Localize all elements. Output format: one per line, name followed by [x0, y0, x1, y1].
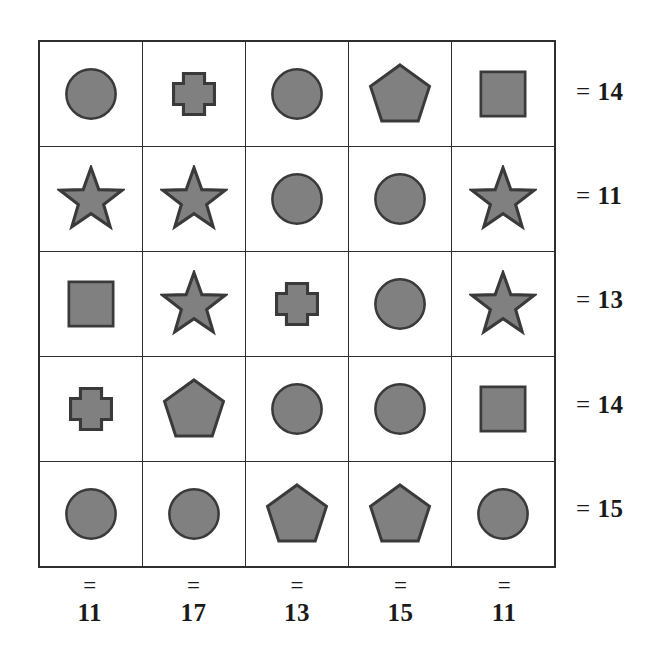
column-sum-value: 13 [284, 600, 310, 625]
grid-cell[interactable] [451, 462, 555, 568]
pentagon-icon [349, 42, 451, 146]
equals-sign: = [576, 391, 591, 419]
pentagon-icon [349, 462, 451, 566]
shape-grid [38, 40, 556, 568]
grid-cell[interactable] [142, 41, 245, 147]
star-icon [143, 252, 245, 356]
equals-sign: = [498, 574, 511, 596]
shape-sum-puzzle: =14=11=13=14=15 =11=17=13=15=11 [0, 0, 666, 668]
grid-cell[interactable] [348, 252, 451, 357]
column-sums-row: =11=17=13=15=11 [38, 574, 556, 644]
grid-cell[interactable] [142, 147, 245, 252]
grid-cell[interactable] [245, 357, 348, 462]
grid-cell[interactable] [348, 41, 451, 147]
circle-icon [246, 42, 348, 146]
grid-row [39, 357, 555, 462]
grid-cell[interactable] [142, 462, 245, 568]
column-sum-value: 15 [388, 600, 414, 625]
grid-cell[interactable] [348, 462, 451, 568]
grid-cell[interactable] [142, 357, 245, 462]
grid-cell[interactable] [39, 252, 142, 357]
cross-icon [40, 357, 142, 461]
grid-cell[interactable] [39, 147, 142, 252]
column-sum-label: =15 [349, 574, 453, 644]
grid-cell[interactable] [348, 147, 451, 252]
row-sum-value: 13 [598, 286, 624, 314]
grid-cell[interactable] [451, 357, 555, 462]
circle-icon [349, 357, 451, 461]
circle-icon [40, 42, 142, 146]
row-sum-label: =15 [576, 457, 662, 561]
equals-sign: = [576, 78, 591, 106]
grid-cell[interactable] [348, 357, 451, 462]
grid-cell[interactable] [39, 462, 142, 568]
star-icon [452, 252, 554, 356]
grid-cell[interactable] [245, 462, 348, 568]
equals-sign: = [187, 574, 200, 596]
equals-sign: = [83, 574, 96, 596]
grid-row [39, 252, 555, 357]
circle-icon [349, 147, 451, 251]
equals-sign: = [576, 182, 591, 210]
equals-sign: = [576, 495, 591, 523]
column-sum-label: =13 [245, 574, 349, 644]
column-sum-value: 17 [180, 600, 206, 625]
circle-icon [40, 462, 142, 566]
grid-cell[interactable] [39, 41, 142, 147]
column-sum-value: 11 [77, 600, 102, 625]
grid-cell[interactable] [245, 41, 348, 147]
equals-sign: = [576, 286, 591, 314]
column-sum-value: 11 [492, 600, 517, 625]
puzzle-grid-container [38, 40, 556, 561]
circle-icon [246, 147, 348, 251]
star-icon [40, 147, 142, 251]
square-icon [452, 357, 554, 461]
grid-row [39, 41, 555, 147]
row-sum-value: 11 [598, 182, 623, 210]
square-icon [40, 252, 142, 356]
grid-cell[interactable] [245, 147, 348, 252]
grid-cell[interactable] [451, 41, 555, 147]
row-sum-label: =14 [576, 353, 662, 457]
column-sum-label: =11 [452, 574, 556, 644]
column-sum-label: =11 [38, 574, 142, 644]
cross-icon [143, 42, 245, 146]
row-sum-label: =13 [576, 248, 662, 352]
equals-sign: = [394, 574, 407, 596]
circle-icon [246, 357, 348, 461]
column-sum-label: =17 [142, 574, 246, 644]
shape-grid-body [39, 41, 555, 567]
row-sum-label: =14 [576, 40, 662, 144]
circle-icon [143, 462, 245, 566]
square-icon [452, 42, 554, 146]
row-sums-column: =14=11=13=14=15 [576, 40, 662, 561]
cross-icon [246, 252, 348, 356]
star-icon [452, 147, 554, 251]
grid-row [39, 147, 555, 252]
circle-icon [452, 462, 554, 566]
grid-cell[interactable] [451, 147, 555, 252]
pentagon-icon [246, 462, 348, 566]
row-sum-label: =11 [576, 144, 662, 248]
row-sum-value: 14 [598, 78, 624, 106]
circle-icon [349, 252, 451, 356]
row-sum-value: 14 [598, 391, 624, 419]
pentagon-icon [143, 357, 245, 461]
row-sum-value: 15 [598, 495, 624, 523]
equals-sign: = [290, 574, 303, 596]
grid-cell[interactable] [142, 252, 245, 357]
grid-cell[interactable] [39, 357, 142, 462]
grid-cell[interactable] [451, 252, 555, 357]
grid-row [39, 462, 555, 568]
grid-cell[interactable] [245, 252, 348, 357]
star-icon [143, 147, 245, 251]
